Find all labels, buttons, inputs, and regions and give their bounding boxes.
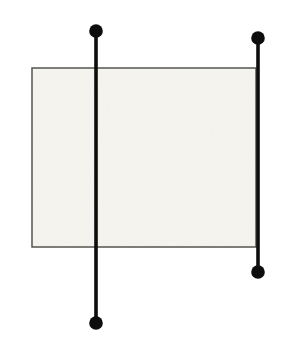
right-line-bottom-endpoint-dot xyxy=(251,265,265,279)
diagram-canvas xyxy=(0,0,285,350)
left-line-bottom-endpoint-dot xyxy=(89,316,103,330)
panel-fill xyxy=(32,68,256,247)
panel-rectangle xyxy=(32,68,256,247)
right-line-top-endpoint-dot xyxy=(251,31,265,45)
left-line-top-endpoint-dot xyxy=(89,24,103,38)
diagram-svg xyxy=(0,0,285,350)
